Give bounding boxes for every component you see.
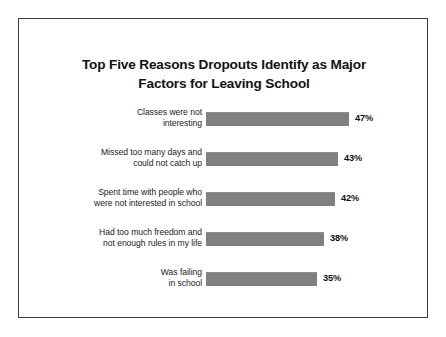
bar-category-label-line-2: in school bbox=[41, 278, 202, 289]
chart-title-line-2: Factors for Leaving School bbox=[41, 74, 407, 93]
bar-category-label: Classes were not interesting bbox=[41, 107, 202, 130]
bar-track: 35% bbox=[206, 272, 406, 286]
bar-category-label-line-1: Had too much freedom and bbox=[41, 227, 202, 238]
bar-row: Missed too many days and could not catch… bbox=[41, 147, 407, 181]
bar-row: Classes were not interesting 47% bbox=[41, 107, 407, 141]
bar-value-label: 38% bbox=[330, 233, 348, 243]
bar-category-label-line-2: interesting bbox=[41, 118, 202, 129]
bar-category-label: Spent time with people who were not inte… bbox=[41, 187, 202, 210]
bar-fill bbox=[206, 232, 324, 246]
bar-track: 42% bbox=[206, 192, 406, 206]
bar-category-label-line-2: not enough rules in my life bbox=[41, 238, 202, 249]
bar-track: 43% bbox=[206, 152, 406, 166]
bar-category-label-line-1: Classes were not bbox=[41, 107, 202, 118]
bar-category-label-line-2: were not interested in school bbox=[41, 198, 202, 209]
bar-fill bbox=[206, 272, 317, 286]
bar-category-label-line-1: Missed too many days and bbox=[41, 147, 202, 158]
bar-value-label: 42% bbox=[341, 193, 359, 203]
bar-value-label: 47% bbox=[355, 113, 373, 123]
bar-fill bbox=[206, 192, 335, 206]
bar-category-label: Had too much freedom and not enough rule… bbox=[41, 227, 202, 250]
bar-row: Spent time with people who were not inte… bbox=[41, 187, 407, 221]
bar-track: 47% bbox=[206, 112, 406, 126]
bar-chart-plot-area: Classes were not interesting 47% Missed … bbox=[41, 107, 407, 307]
chart-frame: Top Five Reasons Dropouts Identify as Ma… bbox=[18, 18, 428, 318]
bar-fill bbox=[206, 112, 349, 126]
bar-value-label: 43% bbox=[344, 153, 362, 163]
bar-row: Had too much freedom and not enough rule… bbox=[41, 227, 407, 261]
bar-category-label: Missed too many days and could not catch… bbox=[41, 147, 202, 170]
bar-track: 38% bbox=[206, 232, 406, 246]
bar-row: Was failing in school 35% bbox=[41, 267, 407, 301]
bar-fill bbox=[206, 152, 338, 166]
chart-title: Top Five Reasons Dropouts Identify as Ma… bbox=[41, 55, 407, 93]
bar-category-label-line-1: Spent time with people who bbox=[41, 187, 202, 198]
bar-category-label-line-1: Was failing bbox=[41, 267, 202, 278]
bar-category-label-line-2: could not catch up bbox=[41, 158, 202, 169]
slide-canvas: Top Five Reasons Dropouts Identify as Ma… bbox=[0, 0, 446, 337]
chart-title-line-1: Top Five Reasons Dropouts Identify as Ma… bbox=[41, 55, 407, 74]
bar-value-label: 35% bbox=[323, 273, 341, 283]
bar-category-label: Was failing in school bbox=[41, 267, 202, 290]
